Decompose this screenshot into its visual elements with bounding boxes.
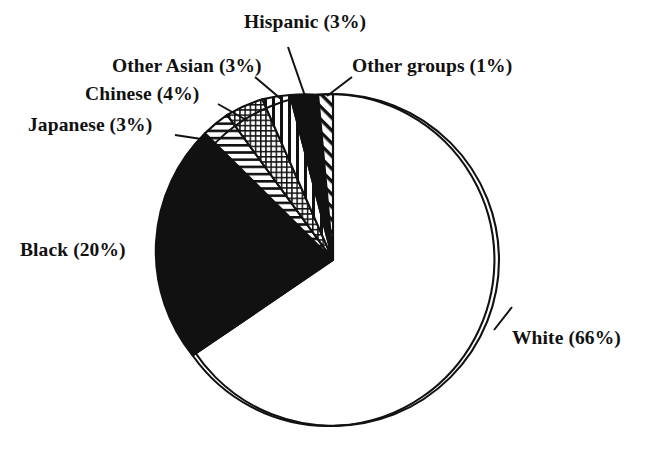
pie-label-hispanic: Hispanic (3%) (244, 12, 366, 32)
pie-label-other-groups: Other groups (1%) (352, 56, 512, 76)
pie-label-other-asian: Other Asian (3%) (112, 56, 262, 76)
leader-line-other-asian (255, 77, 281, 99)
pie-chart-svg (0, 0, 646, 455)
leader-line-hispanic (288, 47, 305, 96)
leader-line-white (494, 307, 512, 330)
pie-label-chinese: Chinese (4%) (85, 84, 199, 104)
pie-label-black: Black (20%) (20, 240, 126, 260)
pie-chart-figure: Hispanic (3%) Other Asian (3%) Other gro… (0, 0, 646, 455)
pie-label-white: White (66%) (512, 328, 621, 348)
pie-label-japanese: Japanese (3%) (28, 115, 152, 135)
